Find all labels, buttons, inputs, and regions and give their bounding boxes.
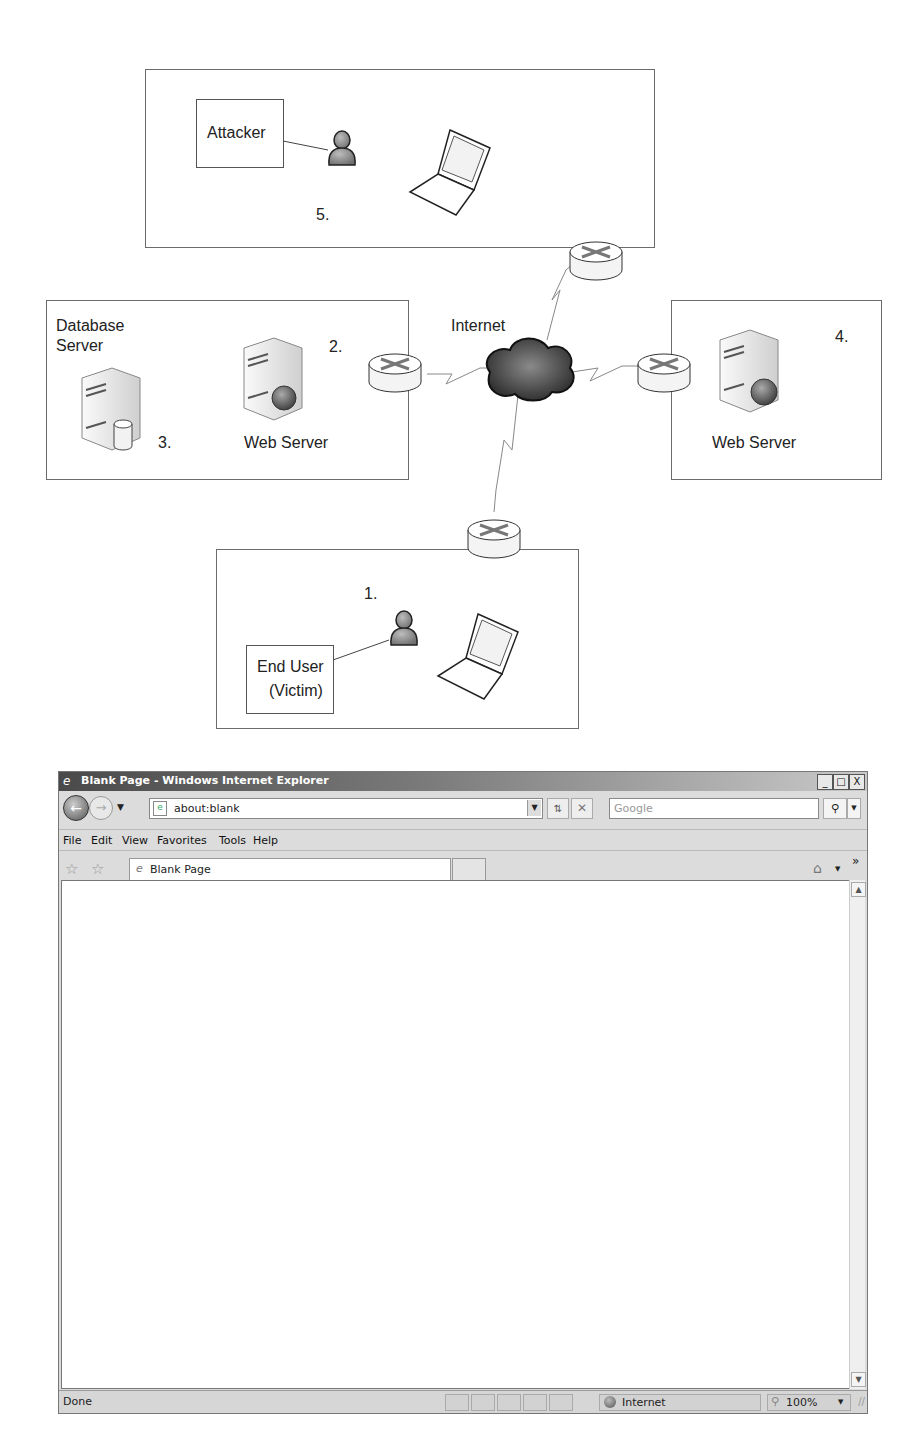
router-icon (638, 354, 690, 392)
minimize-button[interactable]: _ (817, 774, 833, 790)
home-dropdown-icon[interactable]: ▼ (835, 865, 840, 873)
title-bar: e Blank Page - Windows Internet Explorer (59, 772, 867, 791)
address-text: about:blank (174, 802, 240, 815)
zoom-icon: ⚲ (771, 1395, 779, 1408)
vertical-scrollbar[interactable]: ▲ ▼ (849, 880, 865, 1389)
favorites-star-icon[interactable]: ☆ (65, 860, 78, 878)
zoom-dropdown-icon[interactable]: ▼ (838, 1398, 843, 1406)
back-button[interactable]: ← (63, 795, 89, 821)
close-button[interactable]: X (849, 774, 865, 790)
menu-file[interactable]: File (63, 834, 81, 847)
person-icon (329, 131, 355, 165)
new-tab-button[interactable] (452, 858, 486, 881)
router-icon (369, 354, 421, 392)
forward-button[interactable]: → (89, 796, 113, 820)
history-dropdown-icon[interactable]: ▼ (117, 802, 124, 812)
resize-grip-icon[interactable]: // (858, 1396, 865, 1407)
cloud-icon (487, 338, 574, 400)
router-icon (570, 242, 622, 280)
laptop-icon (438, 614, 518, 699)
zone-pane[interactable]: Internet (599, 1394, 761, 1411)
ie-logo-icon: e (63, 774, 70, 788)
scroll-up-button[interactable]: ▲ (851, 882, 866, 897)
tab-blank-page[interactable]: e Blank Page (129, 858, 451, 881)
status-pane (497, 1394, 521, 1411)
page-content (61, 880, 851, 1389)
status-pane (471, 1394, 495, 1411)
diagram-graphics (0, 0, 909, 760)
zone-text: Internet (622, 1396, 666, 1409)
add-favorites-icon[interactable]: ☆ (91, 860, 104, 878)
page-icon: e (153, 801, 167, 816)
server-icon (244, 338, 302, 420)
globe-icon (272, 386, 296, 410)
menu-view[interactable]: View (122, 834, 148, 847)
search-placeholder: Google (614, 802, 653, 815)
laptop-icon (410, 130, 490, 215)
status-pane (445, 1394, 469, 1411)
status-bar: Done Internet ⚲ 100% ▼ // (59, 1390, 867, 1413)
menu-favorites[interactable]: Favorites (157, 834, 207, 847)
status-pane (523, 1394, 547, 1411)
search-input[interactable]: Google (609, 798, 819, 819)
more-tools-icon[interactable]: » (852, 854, 859, 868)
menu-bar: File Edit View Favorites Tools Help (59, 829, 867, 851)
address-bar[interactable]: e about:blank ▼ (149, 798, 543, 819)
search-button[interactable]: ⚲ (823, 798, 847, 819)
scroll-down-button[interactable]: ▼ (851, 1372, 866, 1387)
tab-title: Blank Page (150, 863, 211, 876)
stop-button[interactable]: ✕ (571, 798, 593, 819)
status-text: Done (63, 1395, 92, 1408)
menu-edit[interactable]: Edit (91, 834, 112, 847)
globe-icon (604, 1396, 616, 1408)
home-icon[interactable]: ⌂ (813, 860, 822, 876)
maximize-button[interactable]: □ (833, 774, 849, 790)
zoom-level: 100% (786, 1396, 817, 1409)
menu-tools[interactable]: Tools (219, 834, 246, 847)
ie-window: e Blank Page - Windows Internet Explorer… (58, 771, 868, 1414)
search-options-icon[interactable]: ▼ (847, 798, 861, 819)
window-title: Blank Page - Windows Internet Explorer (81, 774, 329, 787)
database-icon (114, 420, 132, 450)
address-dropdown-icon[interactable]: ▼ (527, 800, 541, 816)
person-icon (391, 611, 417, 645)
status-pane (549, 1394, 573, 1411)
menu-help[interactable]: Help (253, 834, 278, 847)
tab-ie-icon: e (136, 862, 143, 875)
refresh-button[interactable]: ⇅ (547, 798, 569, 819)
globe-icon (751, 379, 777, 405)
zoom-pane[interactable]: ⚲ 100% ▼ (767, 1394, 851, 1411)
router-icon (468, 520, 520, 558)
